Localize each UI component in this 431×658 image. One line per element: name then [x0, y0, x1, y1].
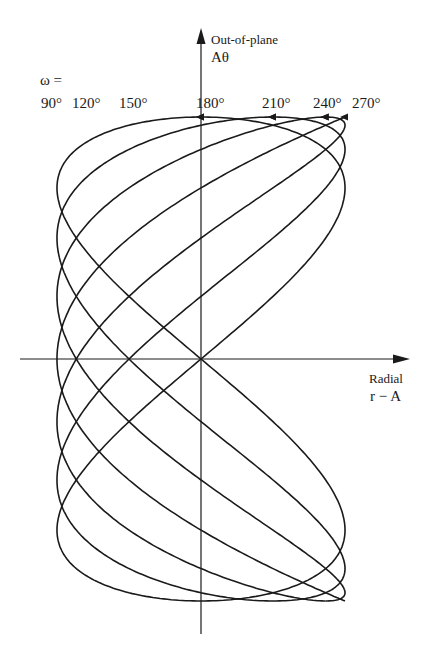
axes — [20, 28, 410, 634]
y-axis-label-line2: Aθ — [211, 50, 229, 65]
direction-arrow-icon — [321, 114, 329, 121]
x-axis-label-line1: Radial — [369, 372, 403, 385]
x-axis-label-line2: r − A — [370, 389, 401, 404]
omega-label-180: 180° — [196, 96, 225, 111]
omega-label-240: 240° — [313, 96, 342, 111]
omega-prefix: ω = — [40, 73, 62, 88]
omega-label-210: 210° — [262, 96, 291, 111]
horizontal-axis-arrow-icon — [393, 355, 410, 364]
vertical-axis-arrow-icon — [197, 28, 206, 44]
direction-arrow-icon — [268, 114, 276, 121]
omega-label-90: 90° — [41, 96, 62, 111]
omega-label-150: 150° — [119, 96, 148, 111]
omega-label-120: 120° — [72, 96, 101, 111]
direction-arrow-icon — [196, 114, 204, 121]
omega-label-270: 270° — [352, 96, 381, 111]
y-axis-label-line1: Out-of-plane — [211, 33, 278, 46]
